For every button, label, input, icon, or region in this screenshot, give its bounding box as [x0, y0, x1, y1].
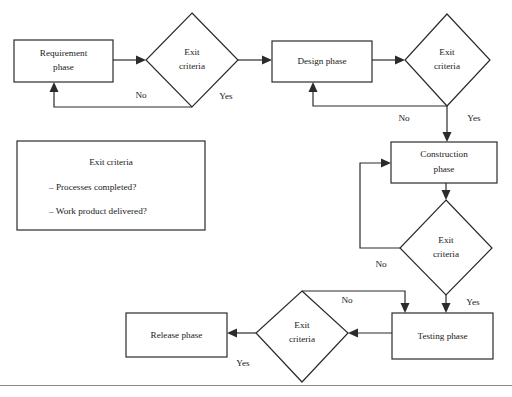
legend-box: Exit criteria – Processes completed? – W…: [17, 141, 205, 230]
edge-label-yes-2: Yes: [467, 113, 481, 123]
legend-item-0: – Processes completed?: [48, 182, 136, 192]
node-requirement-phase-label-line1: Requirement: [40, 48, 88, 58]
node-exit-criteria-4-label-line2: criteria: [289, 334, 315, 344]
node-testing-phase[interactable]: Testing phase: [392, 313, 493, 359]
edge-exit4-yes-to-release: [227, 329, 256, 338]
edge-label-no-4: No: [341, 295, 353, 305]
flowchart-figure: back to Requirement phase --> Design pha…: [0, 0, 512, 397]
edge-label-no-1: No: [135, 90, 147, 100]
node-exit-criteria-2[interactable]: Exit criteria: [405, 14, 490, 106]
node-exit-criteria-2-label-line2: criteria: [434, 61, 460, 71]
edge-label-no-2: No: [398, 113, 410, 123]
edge-label-yes-4: Yes: [236, 358, 250, 368]
node-exit-criteria-3-label-line2: criteria: [433, 249, 459, 259]
legend-item-1: – Work product delivered?: [48, 206, 147, 216]
edge-label-yes-1: Yes: [219, 91, 233, 101]
legend-title: Exit criteria: [89, 157, 133, 167]
edge-label-yes-3: Yes: [466, 297, 480, 307]
node-construction-phase[interactable]: Construction phase: [391, 142, 497, 183]
flowchart-canvas: back to Requirement phase --> Design pha…: [0, 0, 512, 397]
node-exit-criteria-4[interactable]: Exit criteria: [256, 291, 348, 382]
edge-exit2-no-to-design: [309, 82, 448, 106]
node-release-phase-label-line1: Release phase: [151, 330, 203, 340]
edge-design-to-exit2: [372, 56, 405, 65]
node-requirement-phase-label-line2: phase: [53, 62, 74, 72]
node-exit-criteria-1-label-line2: criteria: [179, 61, 205, 71]
node-construction-phase-label-line2: phase: [434, 164, 455, 174]
node-exit-criteria-4-label-line1: Exit: [294, 320, 310, 330]
node-requirement-phase[interactable]: Requirement phase: [14, 40, 113, 82]
node-exit-criteria-1-label-line1: Exit: [184, 47, 200, 57]
edge-testing-to-exit4: [348, 329, 392, 338]
edge-exit3-yes-to-testing: [442, 295, 451, 313]
edge-exit2-yes-to-construction: [443, 106, 452, 142]
node-exit-criteria-2-label-line1: Exit: [439, 47, 455, 57]
node-exit-criteria-3-label-line1: Exit: [438, 235, 454, 245]
node-design-phase[interactable]: Design phase: [272, 41, 372, 82]
edge-label-no-3: No: [375, 259, 387, 269]
node-exit-criteria-3[interactable]: Exit criteria: [400, 200, 492, 295]
edge-construction-to-exit3: [442, 183, 451, 200]
node-testing-phase-label-line1: Testing phase: [417, 331, 467, 341]
node-design-phase-label-line1: Design phase: [297, 56, 346, 66]
node-construction-phase-label-line1: Construction: [420, 149, 468, 159]
edge-requirement-to-exit1: [113, 56, 146, 65]
node-release-phase[interactable]: Release phase: [126, 313, 227, 357]
edge-exit1-yes-to-design: [238, 56, 272, 65]
